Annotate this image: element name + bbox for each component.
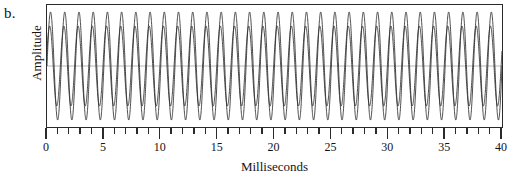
x-tick-minor xyxy=(466,128,467,134)
x-tick-major xyxy=(330,128,331,139)
x-tick-label: 10 xyxy=(154,140,166,155)
x-tick-minor xyxy=(409,128,410,134)
x-tick-major xyxy=(273,128,274,139)
x-tick-label: 40 xyxy=(495,140,507,155)
x-tick-major xyxy=(159,128,160,139)
x-tick-major xyxy=(500,128,501,139)
x-tick-minor xyxy=(136,128,137,134)
x-tick-minor xyxy=(352,128,353,134)
x-tick-minor xyxy=(398,128,399,134)
x-tick-minor xyxy=(79,128,80,134)
x-tick-minor xyxy=(432,128,433,134)
x-tick-minor xyxy=(478,128,479,134)
x-tick-minor xyxy=(250,128,251,134)
x-tick-minor xyxy=(91,128,92,134)
panel-label: b. xyxy=(4,6,16,21)
x-tick-major xyxy=(216,128,217,139)
x-tick-minor xyxy=(296,128,297,134)
x-tick-label: 35 xyxy=(438,140,450,155)
x-tick-minor xyxy=(421,128,422,134)
x-tick-minor xyxy=(239,128,240,134)
x-tick-label: 25 xyxy=(324,140,336,155)
x-tick-minor xyxy=(182,128,183,134)
x-tick-minor xyxy=(307,128,308,134)
x-tick-minor xyxy=(170,128,171,134)
y-axis-title: Amplitude xyxy=(28,0,46,118)
waveform-plot xyxy=(47,5,502,127)
x-tick-minor xyxy=(261,128,262,134)
x-tick-minor xyxy=(375,128,376,134)
x-tick-label: 30 xyxy=(381,140,393,155)
x-tick-minor xyxy=(148,128,149,134)
x-tick-label: 15 xyxy=(211,140,223,155)
x-tick-minor xyxy=(284,128,285,134)
x-tick-minor xyxy=(205,128,206,134)
x-tick-major xyxy=(387,128,388,139)
x-tick-label: 5 xyxy=(100,140,106,155)
plot-area xyxy=(46,4,503,128)
x-tick-minor xyxy=(318,128,319,134)
x-tick-minor xyxy=(364,128,365,134)
x-tick-minor xyxy=(193,128,194,134)
figure-panel-b: b. Amplitude 0510152025303540 Millisecon… xyxy=(0,0,509,180)
x-tick-minor xyxy=(114,128,115,134)
x-tick-major xyxy=(45,128,46,139)
x-tick-minor xyxy=(455,128,456,134)
x-tick-minor xyxy=(68,128,69,134)
x-tick-minor xyxy=(489,128,490,134)
x-tick-major xyxy=(102,128,103,139)
x-tick-minor xyxy=(341,128,342,134)
x-tick-minor xyxy=(125,128,126,134)
x-tick-major xyxy=(443,128,444,139)
x-tick-label: 0 xyxy=(43,140,49,155)
x-tick-minor xyxy=(227,128,228,134)
x-axis-tick-labels: 0510152025303540 xyxy=(46,140,503,156)
x-axis-title: Milliseconds xyxy=(46,159,503,175)
x-tick-label: 20 xyxy=(268,140,280,155)
x-tick-minor xyxy=(57,128,58,134)
